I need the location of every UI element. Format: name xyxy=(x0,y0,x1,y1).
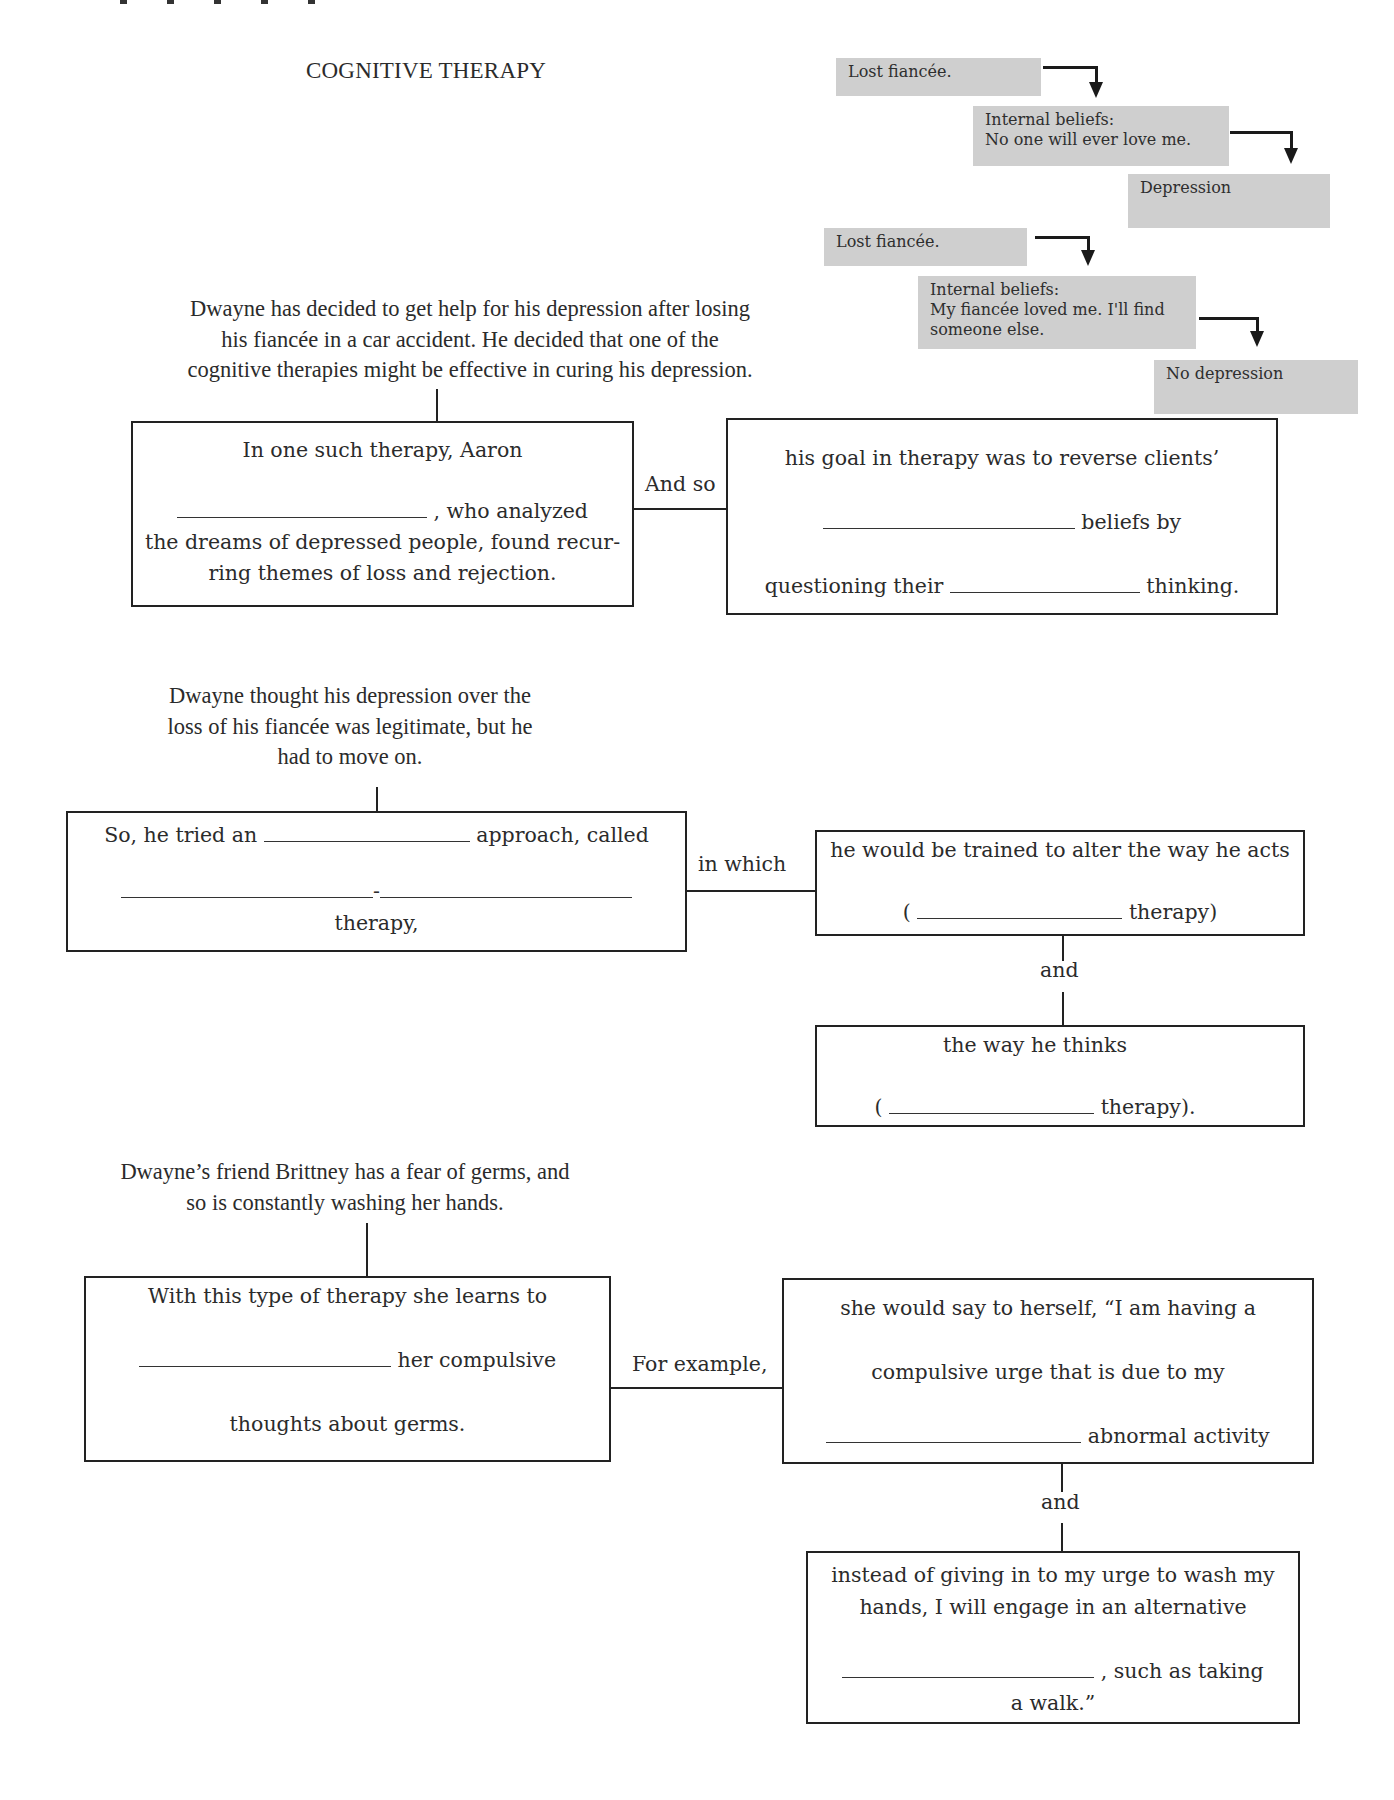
flow2-beliefs-text-line2: someone else. xyxy=(930,320,1184,340)
flow1-arrow2-horizontal xyxy=(1230,131,1292,134)
arrow-down-icon xyxy=(1284,148,1298,164)
box-text: she would say to herself, “I am having a xyxy=(784,1292,1312,1324)
connector-label-for-example: For example, xyxy=(632,1352,767,1376)
fill-in-blank[interactable] xyxy=(950,574,1140,593)
box-text: instead of giving in to my urge to wash … xyxy=(808,1559,1298,1591)
flow1-arrow1-horizontal xyxy=(1043,66,1097,69)
fill-in-blank[interactable] xyxy=(826,1424,1081,1443)
section2-prompt: Dwayne thought his depression over the l… xyxy=(100,681,600,773)
connector-label-and-so: And so xyxy=(645,472,716,496)
fill-in-blank[interactable] xyxy=(842,1659,1094,1678)
arrow-down-icon xyxy=(1250,331,1264,347)
connector-line xyxy=(1061,1464,1063,1492)
box-text: the way he thinks xyxy=(817,1029,1303,1061)
box-text: therapy). xyxy=(1101,1095,1196,1119)
flow1-event-text: Lost fiancée. xyxy=(848,62,951,81)
box-text: ( xyxy=(875,1095,883,1119)
section3-right-box-top: she would say to herself, “I am having a… xyxy=(782,1278,1314,1464)
connector-line xyxy=(376,787,378,813)
box-text: abnormal activity xyxy=(1088,1424,1270,1448)
box-text: thinking. xyxy=(1146,574,1239,598)
connector-label-and: and xyxy=(1041,1490,1080,1514)
flow1-arrow2-vertical xyxy=(1290,131,1293,149)
flow2-arrow1-horizontal xyxy=(1035,236,1089,239)
fill-in-blank[interactable] xyxy=(177,499,427,518)
connector-line xyxy=(610,1387,782,1389)
box-text: approach, called xyxy=(476,823,649,847)
arrow-down-icon xyxy=(1081,250,1095,266)
box-text: his goal in therapy was to reverse clien… xyxy=(728,442,1276,474)
box-text: he would be trained to alter the way he … xyxy=(817,834,1303,866)
connector-line xyxy=(366,1223,368,1277)
flow1-outcome-text: Depression xyxy=(1140,178,1231,197)
fill-in-blank[interactable] xyxy=(889,1095,1094,1114)
prompt-line: had to move on. xyxy=(100,742,600,773)
box-text: With this type of therapy she learns to xyxy=(86,1280,609,1312)
arrow-down-icon xyxy=(1089,82,1103,98)
box-text: , who analyzed xyxy=(434,499,588,523)
flow1-arrow1-vertical xyxy=(1095,66,1098,82)
prompt-line: cognitive therapies might be effective i… xyxy=(120,355,820,386)
fill-in-blank[interactable] xyxy=(917,900,1122,919)
box-text: therapy) xyxy=(1129,900,1217,924)
box-text: beliefs by xyxy=(1081,510,1181,534)
box-text: her compulsive xyxy=(397,1348,556,1372)
fill-in-blank[interactable] xyxy=(121,879,373,898)
box-text: ring themes of loss and rejection. xyxy=(133,558,632,589)
connector-line xyxy=(1061,1523,1063,1553)
flow1-beliefs-label: Internal beliefs: xyxy=(985,110,1217,130)
connector-line xyxy=(686,890,816,892)
box-text: , such as taking xyxy=(1101,1659,1264,1683)
flow2-event-box: Lost fiancée. xyxy=(824,228,1027,266)
fill-in-blank[interactable] xyxy=(823,510,1075,529)
connector-label-in-which: in which xyxy=(698,852,786,876)
prompt-line: Dwayne has decided to get help for his d… xyxy=(120,294,820,325)
flow2-outcome-box: No depression xyxy=(1154,360,1358,414)
prompt-line: his fiancée in a car accident. He decide… xyxy=(120,325,820,356)
flow2-event-text: Lost fiancée. xyxy=(836,232,939,251)
fill-in-blank[interactable] xyxy=(139,1348,391,1367)
flow2-beliefs-box: Internal beliefs: My fiancée loved me. I… xyxy=(918,276,1196,349)
flow2-outcome-text: No depression xyxy=(1166,364,1283,383)
section2-right-box-top: he would be trained to alter the way he … xyxy=(815,830,1305,936)
connector-label-and: and xyxy=(1040,958,1079,982)
section3-prompt: Dwayne’s friend Brittney has a fear of g… xyxy=(70,1157,620,1218)
flow1-outcome-box: Depression xyxy=(1128,174,1330,228)
section1-prompt: Dwayne has decided to get help for his d… xyxy=(120,294,820,386)
connector-line xyxy=(436,389,438,423)
prompt-line: so is constantly washing her hands. xyxy=(70,1188,620,1219)
section2-left-box: So, he tried an approach, called - thera… xyxy=(66,811,687,952)
flow2-beliefs-label: Internal beliefs: xyxy=(930,280,1184,300)
box-text: the dreams of depressed people, found re… xyxy=(133,527,632,558)
box-text: a walk.” xyxy=(808,1687,1298,1719)
box-text: thoughts about germs. xyxy=(86,1408,609,1440)
section3-right-box-bottom: instead of giving in to my urge to wash … xyxy=(806,1551,1300,1724)
flow1-event-box: Lost fiancée. xyxy=(836,58,1041,96)
flow2-arrow2-horizontal xyxy=(1199,317,1259,320)
connector-line xyxy=(633,508,727,510)
section1-right-box: his goal in therapy was to reverse clien… xyxy=(726,418,1278,615)
hyphen-separator: - xyxy=(373,879,380,903)
box-text: questioning their xyxy=(765,574,944,598)
box-text: In one such therapy, Aaron xyxy=(133,435,632,466)
prompt-line: Dwayne’s friend Brittney has a fear of g… xyxy=(70,1157,620,1188)
box-text: compulsive urge that is due to my xyxy=(784,1356,1312,1388)
fill-in-blank[interactable] xyxy=(380,879,632,898)
box-text: So, he tried an xyxy=(104,823,257,847)
page-title: COGNITIVE THERAPY xyxy=(306,58,546,84)
prompt-line: loss of his fiancée was legitimate, but … xyxy=(100,712,600,743)
box-text: ( xyxy=(903,900,911,924)
prompt-line: Dwayne thought his depression over the xyxy=(100,681,600,712)
box-text: therapy, xyxy=(68,907,685,939)
flow1-beliefs-text: No one will ever love me. xyxy=(985,130,1217,150)
flow2-beliefs-text-line1: My fiancée loved me. I'll find xyxy=(930,300,1184,320)
section2-right-box-bottom: the way he thinks ( therapy). xyxy=(815,1025,1305,1127)
connector-line xyxy=(1062,992,1064,1026)
section3-left-box: With this type of therapy she learns to … xyxy=(84,1276,611,1462)
section1-left-box: In one such therapy, Aaron , who analyze… xyxy=(131,421,634,607)
fill-in-blank[interactable] xyxy=(264,823,470,842)
flow1-beliefs-box: Internal beliefs: No one will ever love … xyxy=(973,106,1229,166)
box-text: hands, I will engage in an alternative xyxy=(808,1591,1298,1623)
cropped-page-heading xyxy=(120,0,380,4)
